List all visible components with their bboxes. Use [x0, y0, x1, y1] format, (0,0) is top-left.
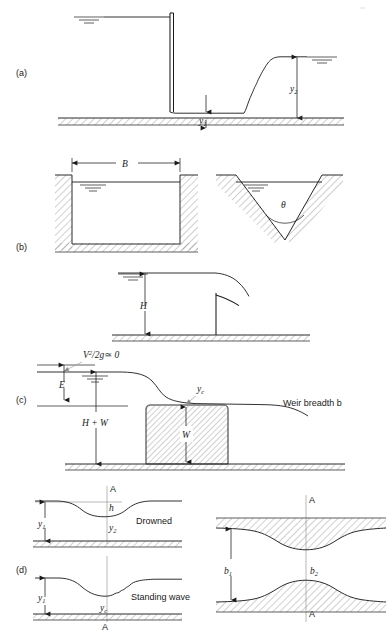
- label-b2-plan: b2: [310, 566, 319, 577]
- caption-drowned: Drowned: [136, 516, 172, 526]
- dimension-H-mid: H: [139, 274, 148, 334]
- label-HW-c: H + W: [81, 418, 109, 428]
- v-notch-b: θ: [216, 175, 343, 245]
- critical-depth-annotation-c: yc: [186, 384, 204, 404]
- upper-bank-plan: [216, 518, 386, 550]
- channel-bed-a: [58, 118, 344, 125]
- label-y1-standing: y1: [37, 593, 45, 604]
- water-surface-symbol-upstream-a: [74, 17, 104, 23]
- nappe-profile-mid: [118, 273, 249, 296]
- dimension-E-c: E: [58, 365, 65, 400]
- label-y2-drowned: y2: [108, 523, 117, 534]
- panel-b: (b) B: [16, 157, 343, 252]
- water-surface-symbol-c: [82, 376, 108, 382]
- corner-mark: ▫▫: [360, 4, 365, 11]
- label-b1-plan: b1: [224, 566, 232, 577]
- label-velocity-head-c: V2/2g≃ 0: [83, 349, 120, 360]
- jump-profile-a: [170, 57, 307, 113]
- panel-d-drowned: A y1 h y2 Drowned: [33, 484, 182, 547]
- channel-bed-c: [65, 464, 345, 470]
- dimension-HW-c: H + W: [81, 372, 109, 464]
- lower-bank-plan: [216, 580, 386, 612]
- dimension-y1-standing: y1: [37, 578, 45, 614]
- label-W-c: W: [182, 430, 191, 440]
- label-H-mid: H: [139, 301, 148, 311]
- label-E-c: E: [58, 380, 65, 390]
- label-B-b: B: [122, 159, 128, 169]
- panel-mid-sharp-crested-weir: H: [112, 273, 310, 341]
- panel-b-label: (b): [16, 242, 27, 252]
- panel-c-label: (c): [16, 395, 27, 405]
- channel-bed-mid: [112, 335, 310, 341]
- dimension-B-b: B: [72, 157, 180, 172]
- panel-d: (d) A y1 h y2: [16, 484, 386, 632]
- dimension-y1-drowned: y1: [37, 502, 45, 541]
- velocity-head-annotation-c: V2/2g≃ 0: [64, 349, 120, 371]
- caption-standing-wave: Standing wave: [131, 592, 190, 602]
- dimension-b1-plan: b1: [224, 529, 232, 600]
- dimension-y2-a: y2: [289, 57, 298, 118]
- panel-c: (c) V2/2g≃ 0 E: [16, 349, 345, 470]
- panel-d-label: (d): [16, 565, 27, 575]
- panel-a-label: (a): [16, 68, 27, 78]
- figure-canvas: ▫▫ (a) y1: [0, 0, 392, 639]
- water-surface-symbol-mid: [118, 274, 148, 280]
- water-surface-symbol-downstream-a: [307, 57, 337, 63]
- label-weir-breadth-c: Weir breadth b: [283, 398, 342, 408]
- panel-a: (a) y1: [16, 13, 344, 128]
- label-A-standing-bottom: A: [102, 622, 108, 632]
- label-A-plan-top: A: [309, 495, 315, 505]
- label-theta-b: θ: [281, 200, 286, 210]
- label-yc-standing: yc: [99, 603, 107, 614]
- rectangular-notch-b: [55, 175, 198, 252]
- weir-plate-mid: [216, 293, 239, 335]
- label-h-drowned: h: [109, 503, 114, 513]
- label-y1-drowned: y1: [37, 519, 45, 530]
- label-A-drowned-top: A: [110, 484, 116, 494]
- panel-d-standing-wave: A y1 yc Standing wave: [33, 556, 190, 632]
- sluice-gate-a: [170, 13, 174, 112]
- label-yc-c: yc: [196, 384, 204, 395]
- water-surface-symbol-b-rect: [80, 185, 106, 191]
- panel-d-plan-view: A A b1 b2: [216, 495, 386, 622]
